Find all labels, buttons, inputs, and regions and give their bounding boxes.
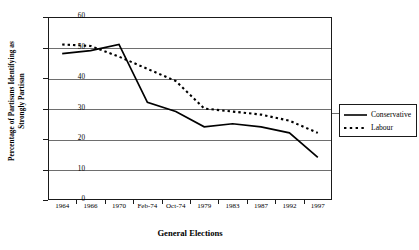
legend-label: Conservative	[371, 110, 411, 119]
y-axis-tick-mark	[43, 109, 48, 110]
x-axis-tick-mark	[76, 200, 77, 204]
legend-item-labour[interactable]: Labour	[343, 121, 416, 134]
y-axis-tick-label: 40	[61, 74, 85, 81]
x-axis-tick-mark	[304, 200, 305, 204]
x-axis-tick-mark	[190, 200, 191, 204]
y-axis-tick-mark	[43, 170, 48, 171]
legend-swatch-dotted	[343, 123, 368, 133]
x-axis-tick-mark	[133, 200, 134, 204]
y-axis-tick-label: 50	[61, 44, 85, 51]
y-axis-tick-label: 60	[61, 13, 85, 20]
y-axis-title-line-1: Percentage of Partisans Identifying as	[8, 6, 18, 196]
legend-swatch-solid	[343, 110, 368, 120]
x-axis-title: General Elections	[48, 228, 332, 238]
y-axis-tick-label: 20	[61, 135, 85, 142]
y-axis-tick-mark	[43, 78, 48, 79]
y-axis-tick-mark	[43, 48, 48, 49]
y-axis-tick-label: 30	[61, 105, 85, 112]
y-axis-tick-mark	[43, 200, 48, 201]
y-axis-title-line-2: Strongly Partisan	[18, 6, 28, 196]
x-axis-tick-mark	[218, 200, 219, 204]
x-axis-tick-mark	[162, 200, 163, 204]
chart-figure: Percentage of Partisans Identifying as S…	[0, 0, 419, 250]
x-axis-tick-label: 1997	[298, 203, 338, 210]
y-axis-tick-label: 10	[61, 166, 85, 173]
series-line-conservative	[62, 44, 318, 157]
y-axis-tick-mark	[43, 139, 48, 140]
series-layer	[48, 17, 332, 200]
x-axis-tick-mark	[247, 200, 248, 204]
x-axis-tick-mark	[105, 200, 106, 204]
x-axis-tick-mark	[275, 200, 276, 204]
y-axis-title: Percentage of Partisans Identifying as S…	[8, 6, 34, 196]
legend-item-conservative[interactable]: Conservative	[343, 108, 416, 121]
chart-legend: ConservativeLabour	[339, 104, 417, 137]
legend-label: Labour	[371, 123, 393, 132]
y-axis-tick-mark	[43, 17, 48, 18]
